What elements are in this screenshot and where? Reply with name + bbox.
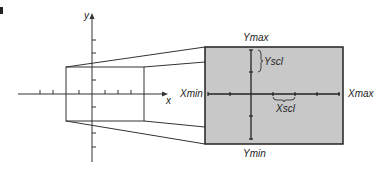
- ymin-label: Ymin: [243, 148, 266, 159]
- xscl-label: Xscl: [275, 103, 296, 114]
- y-axis-arrow-icon: [90, 13, 95, 19]
- y-axis-label: y: [83, 10, 90, 21]
- corner-mark: [0, 7, 3, 14]
- xmin-label: Xmin: [179, 88, 203, 99]
- cartesian-plane: [18, 13, 205, 162]
- x-axis-ticks: [40, 90, 131, 94]
- x-axis-label: x: [165, 95, 172, 106]
- ymax-label: Ymax: [243, 32, 270, 43]
- projection-line-bottom-inner: [144, 121, 205, 127]
- projection-line-top-inner: [144, 62, 205, 67]
- yscl-label: Yscl: [264, 56, 284, 67]
- viewing-window-diagram: y x Ymax Ymin Xmin Xmax Yscl Xscl: [0, 0, 379, 171]
- xmax-label: Xmax: [347, 88, 375, 99]
